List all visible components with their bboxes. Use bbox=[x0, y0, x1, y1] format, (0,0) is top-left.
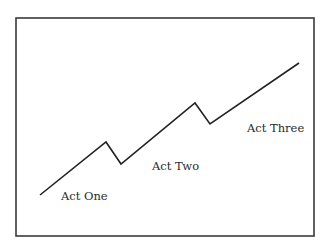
three-act-diagram: Act One Act Two Act Three bbox=[0, 0, 331, 250]
label-act-two: Act Two bbox=[151, 159, 199, 173]
label-act-one: Act One bbox=[60, 189, 108, 203]
label-act-three: Act Three bbox=[246, 121, 304, 135]
